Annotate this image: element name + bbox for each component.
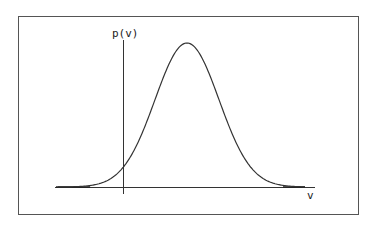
chart-frame [19, 17, 359, 215]
x-axis-label: v [307, 189, 314, 202]
gaussian-curve [58, 43, 305, 187]
chart-canvas: p(v) v [0, 0, 378, 225]
y-axis-label: p(v) [112, 27, 139, 40]
